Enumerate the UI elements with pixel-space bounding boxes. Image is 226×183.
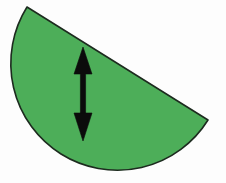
- figure-svg: [0, 0, 226, 183]
- figure-canvas: Green half-disc with vertical double-hea…: [0, 0, 226, 183]
